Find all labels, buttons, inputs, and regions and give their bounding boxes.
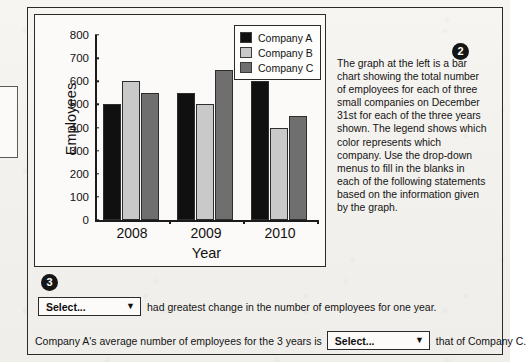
statement-2-text-after: that of Company C. (436, 335, 526, 347)
bar (177, 93, 195, 220)
statement-row-1: Select... ▼ had greatest change in the n… (38, 297, 437, 316)
x-tick-label: 2009 (190, 225, 221, 241)
bar-group (103, 35, 161, 220)
statement-row-2: Company A's average number of employees … (35, 331, 526, 350)
dropdown-1-value: Select... (46, 301, 86, 313)
statement-1-text-after: had greatest change in the number of emp… (147, 301, 437, 313)
bar (251, 81, 269, 220)
y-tick-mark (95, 127, 99, 128)
x-axis-title: Year (95, 245, 318, 261)
legend-swatch (240, 32, 252, 43)
y-tick-label: 100 (70, 191, 89, 203)
bar (122, 81, 140, 220)
bar-group (177, 35, 235, 220)
y-tick-label: 200 (70, 168, 89, 180)
dropdown-2-value: Select... (335, 335, 375, 347)
chart-legend: Company ACompany BCompany C (234, 25, 321, 80)
y-tick-label: 600 (70, 75, 89, 87)
y-tick-label: 500 (70, 98, 89, 110)
y-tick-mark (95, 34, 99, 35)
y-tick-mark (95, 57, 99, 58)
legend-label: Company B (258, 47, 313, 59)
x-tick-label: 2010 (264, 225, 295, 241)
select-dropdown-1[interactable]: Select... ▼ (38, 297, 141, 316)
legend-item: Company C (240, 60, 313, 75)
y-tick-label: 300 (70, 145, 89, 157)
chevron-down-icon: ▼ (126, 302, 135, 311)
legend-item: Company A (240, 30, 313, 45)
x-tick-mark (317, 220, 319, 224)
x-axis-line (95, 220, 318, 222)
y-tick-mark (95, 150, 99, 151)
legend-swatch (240, 47, 252, 58)
y-tick-label: 700 (70, 52, 89, 64)
y-tick-label: 0 (83, 214, 89, 226)
legend-swatch (240, 62, 252, 73)
legend-item: Company B (240, 45, 313, 60)
bar (103, 104, 121, 220)
y-tick-mark (95, 81, 99, 82)
y-tick-mark (95, 104, 99, 105)
legend-label: Company C (258, 62, 313, 74)
bar (270, 128, 288, 221)
y-tick-mark (95, 196, 99, 197)
y-tick-mark (95, 219, 99, 220)
statement-2-text-before: Company A's average number of employees … (35, 335, 322, 347)
select-dropdown-2[interactable]: Select... ▼ (327, 331, 430, 350)
chevron-down-icon: ▼ (415, 336, 424, 345)
bar (196, 104, 214, 220)
callout-badge-3: 3 (41, 274, 58, 291)
y-tick-label: 400 (70, 122, 89, 134)
x-tick-mark (243, 220, 245, 224)
bar (215, 70, 233, 220)
legend-label: Company A (258, 32, 312, 44)
y-tick-mark (95, 173, 99, 174)
bar-chart-panel: Employees 0100200300400500600700800 Year… (34, 14, 326, 267)
x-tick-label: 2008 (116, 225, 147, 241)
bar (141, 93, 159, 220)
bar (289, 116, 307, 220)
y-tick-label: 800 (70, 29, 89, 41)
x-tick-mark (169, 220, 171, 224)
question-description: The graph at the left is a bar chart sho… (337, 57, 487, 214)
left-margin-cropped-box (0, 86, 18, 158)
